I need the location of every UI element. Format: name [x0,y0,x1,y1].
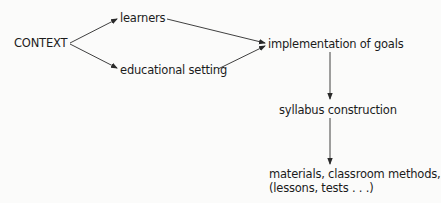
arrow-context-to-setting [70,44,117,68]
node-materials: materials, classroom methods, (lessons, … [269,167,441,195]
arrow-context-to-learners [70,19,117,43]
node-syllabus-construction: syllabus construction [279,103,397,117]
node-context: CONTEXT [14,36,67,50]
node-implementation-of-goals: implementation of goals [268,37,403,51]
arrow-learners-to-implementation [167,19,265,43]
node-learners: learners [120,11,165,25]
materials-line-2: (lessons, tests . . .) [269,181,441,195]
node-educational-setting: educational setting [120,63,227,77]
materials-line-1: materials, classroom methods, [269,167,441,181]
